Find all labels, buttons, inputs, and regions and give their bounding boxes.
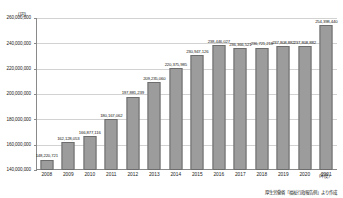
bar-series: 148,220,721162,128,053166,877,116180,167… [36,18,337,170]
x-axis-tick-label: 2012 [127,172,138,177]
y-axis-tick-label: 160,000,000 [0,142,31,147]
bar[interactable] [277,46,290,170]
x-axis-tick-label: 2019 [278,172,289,177]
bar-value-label: 209,235,060 [143,76,165,81]
bar[interactable] [298,46,311,170]
bar-slot: 220,375,985 [165,18,187,170]
x-axis-unit-label: (年度) [319,172,330,178]
bar-slot: 166,877,116 [79,18,101,170]
bar-slot: 236,366,521 [230,18,252,170]
y-axis-tick-label: 240,000,000 [0,41,31,46]
y-axis-tick-label: 200,000,000 [0,91,31,96]
x-axis-tick-label: 2008 [41,172,52,177]
bar-slot: 197,881,239 [122,18,144,170]
bar[interactable] [83,136,96,170]
bar[interactable] [105,119,118,170]
bar-slot: 162,128,053 [58,18,80,170]
bar-value-label: 180,167,062 [100,113,122,118]
y-axis-tick-label: 260,000,000 [0,15,31,20]
source-note: 厚生労働省「福祉行政報告例」より作成 [265,189,337,195]
bar-value-label: 197,881,239 [122,90,144,95]
x-axis-tick-label: 2015 [192,172,203,177]
bar[interactable] [320,25,333,170]
bar-value-label: 254,398,440 [315,19,337,24]
bar-slot: 254,398,440 [316,18,338,170]
bar[interactable] [255,48,268,171]
bar-value-label: 220,375,985 [165,62,187,67]
bar[interactable] [191,55,204,170]
bar-value-label: 237,808,882 [272,40,294,45]
bar-value-label: 148,220,721 [36,153,58,158]
bar[interactable] [148,82,161,170]
bar[interactable] [169,68,182,170]
bar-value-label: 166,877,116 [79,130,101,135]
bar-slot: 148,220,721 [36,18,58,170]
bar-slot: 238,446,027 [208,18,230,170]
bar-value-label: 237,808,882 [294,40,316,45]
bar-value-label: 230,947,126 [186,49,208,54]
x-axis-tick-label: 2013 [149,172,160,177]
bar-value-label: 236,366,521 [229,42,251,47]
x-axis-tick-label: 2016 [213,172,224,177]
bar[interactable] [234,48,247,170]
y-axis-tick-label: 180,000,000 [0,117,31,122]
x-axis-tick-label: 2009 [63,172,74,177]
bar-slot: 209,235,060 [144,18,166,170]
y-axis-tick-label: 220,000,000 [0,66,31,71]
bar-value-label: 162,128,053 [57,136,79,141]
x-axis-tick-label: 2020 [299,172,310,177]
bar-slot: 237,808,882 [294,18,316,170]
bar-slot: 180,167,062 [101,18,123,170]
x-axis-tick-label: 2018 [256,172,267,177]
bar-slot: 230,947,126 [187,18,209,170]
x-axis-tick-label: 2010 [84,172,95,177]
x-axis-tick-label: 2011 [106,172,116,177]
bar-value-label: 238,446,027 [208,39,230,44]
y-axis-tick [34,170,37,171]
bar-value-label: 236,721,218 [251,41,273,46]
x-axis-tick-label: 2014 [170,172,181,177]
x-axis-tick-label: 2017 [235,172,246,177]
bar-slot: 237,808,882 [273,18,295,170]
bar[interactable] [212,45,225,170]
y-axis-tick-label: 140,000,000 [0,167,31,172]
bar-slot: 236,721,218 [251,18,273,170]
bar[interactable] [126,97,139,170]
bar[interactable] [62,142,75,170]
bar[interactable] [40,160,53,170]
bar-chart: (円) 140,000,000160,000,000180,000,000200… [0,0,343,198]
